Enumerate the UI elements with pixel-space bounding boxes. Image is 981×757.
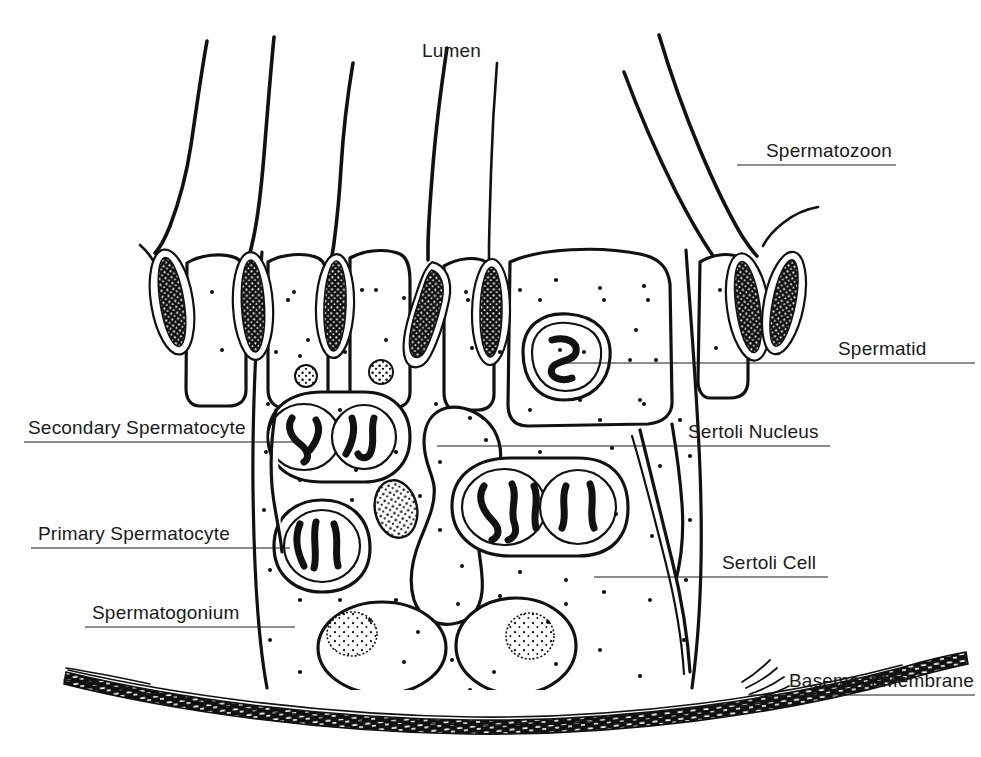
label-spermatozoon: Spermatozoon [766, 140, 892, 161]
label-sertoli-cell: Sertoli Cell [722, 552, 816, 573]
primary-spermatocyte-left [274, 500, 370, 592]
chromosome [334, 524, 338, 566]
secondary-spermatocyte-pair [268, 392, 410, 482]
chromosome [314, 522, 316, 568]
chromosome [534, 486, 536, 528]
spermatogonium-right [456, 598, 576, 694]
spermatozoon-tail-4 [428, 48, 447, 260]
spermatozoon-tail-6 [659, 35, 757, 256]
label-sertoli-nucleus: Sertoli Nucleus [688, 421, 819, 442]
small-dark-cell-a [295, 365, 317, 387]
seminiferous-tubule-diagram: Lumen Spermatozoon Spermatid Sertoli Nuc… [0, 0, 981, 757]
spermatozoon-tail-2 [250, 37, 274, 254]
label-lumen: Lumen [422, 40, 481, 61]
label-spermatogonium: Spermatogonium [92, 602, 240, 623]
spermatogonium-left [318, 602, 446, 694]
label-spermatid: Spermatid [838, 338, 926, 359]
labels-group: Lumen Spermatozoon Spermatid Sertoli Nuc… [28, 40, 974, 691]
spermatid-head-5 [471, 259, 511, 366]
label-primary-spermatocyte: Primary Spermatocyte [38, 523, 230, 544]
spermatozoon-tail-8 [763, 207, 818, 246]
spermatozoon-tail-5 [489, 63, 497, 261]
chromosome [590, 484, 594, 528]
spermatozoon-tail-3 [332, 63, 353, 256]
spermatid-head-7 [754, 248, 813, 358]
label-basement-membrane: Basement Membrane [789, 670, 974, 691]
small-dark-cell-b [369, 360, 393, 384]
early-spermatid [523, 314, 610, 400]
primary-spermatocyte-right-pair [452, 458, 628, 556]
label-secondary-spermatocyte: Secondary Spermatocyte [28, 417, 246, 438]
sertoli-apical-process-right [672, 424, 683, 580]
chromosome [562, 486, 566, 528]
sertoli-nucleus [369, 476, 422, 541]
spermatozoon-tail-1 [155, 41, 207, 253]
seminiferous-tubule-figure: Lumen Spermatozoon Spermatid Sertoli Nuc… [0, 0, 981, 757]
